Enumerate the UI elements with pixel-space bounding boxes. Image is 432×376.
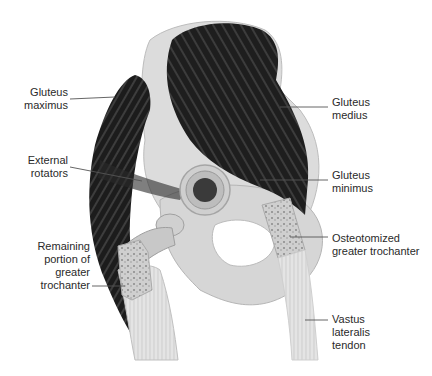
label-external-rotators: External rotators: [14, 154, 68, 180]
acetabular-fossa: [193, 178, 217, 202]
label-vastus-lateralis-tendon: Vastus lateralis tendon: [332, 313, 370, 352]
label-gluteus-maximus: Gluteus maximus: [16, 86, 68, 112]
label-osteotomized-greater-trochanter: Osteotomized greater trochanter: [332, 232, 419, 258]
label-gluteus-minimus: Gluteus minimus: [332, 169, 373, 195]
label-remaining-greater-trochanter: Remaining portion of greater trochanter: [10, 240, 90, 292]
label-gluteus-medius: Gluteus medius: [332, 96, 370, 122]
